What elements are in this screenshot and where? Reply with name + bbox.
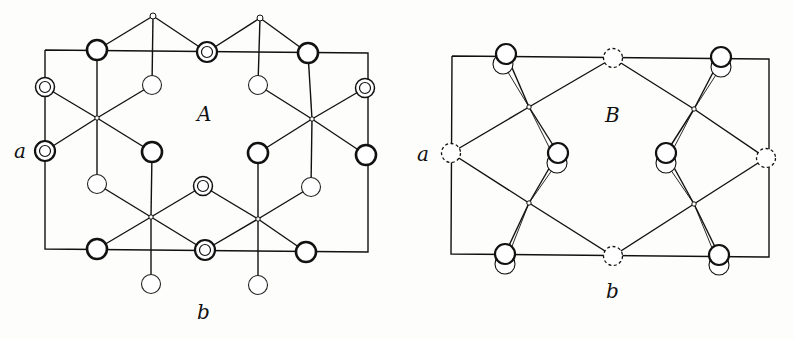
unit-cell-outline-a xyxy=(45,50,368,252)
paired-atom xyxy=(711,47,731,77)
figure-canvas: A a b xyxy=(0,0,794,339)
thick-atom xyxy=(142,142,162,162)
dashed-atom xyxy=(604,247,623,266)
center-dot xyxy=(310,117,314,121)
center-dot xyxy=(527,105,531,109)
paired-atom xyxy=(709,245,729,275)
thin-atom xyxy=(143,76,162,95)
paired-atom xyxy=(656,143,676,173)
double-atom xyxy=(35,141,55,161)
panel-b: B a b xyxy=(417,44,776,303)
thin-atom xyxy=(249,276,268,295)
thin-atom xyxy=(302,178,321,197)
thin-atom xyxy=(88,175,107,194)
center-dot xyxy=(256,217,260,221)
unit-cell-outline-b xyxy=(451,56,769,257)
paired-atom xyxy=(495,244,515,274)
dashed-atom xyxy=(757,149,776,168)
apex-dot xyxy=(150,13,156,19)
center-dot xyxy=(149,215,153,219)
apex-dot xyxy=(257,15,263,21)
thick-atom xyxy=(248,143,268,163)
double-atom xyxy=(194,177,213,196)
axis-label-a: a xyxy=(14,139,26,163)
thick-atom xyxy=(87,40,107,60)
panel-a: A a b xyxy=(14,13,376,324)
thin-atom xyxy=(249,76,268,95)
thin-atom xyxy=(142,275,161,294)
thick-atom xyxy=(298,43,318,63)
dashed-atom xyxy=(442,144,461,163)
panel-label-b: B xyxy=(604,103,620,127)
thick-atom xyxy=(87,239,107,259)
axis-label-a: a xyxy=(417,142,429,166)
bonds-b xyxy=(451,54,766,265)
center-dot xyxy=(527,201,531,205)
dashed-atom xyxy=(604,49,623,68)
double-atom xyxy=(197,42,217,62)
axis-label-b: b xyxy=(606,279,619,303)
panel-label-a: A xyxy=(195,102,211,126)
center-dot xyxy=(692,202,696,206)
axis-label-b: b xyxy=(197,300,210,324)
thick-atom xyxy=(296,242,316,262)
center-dot xyxy=(95,116,99,120)
paired-atom xyxy=(547,143,568,173)
double-atom xyxy=(195,240,215,260)
thick-atom xyxy=(356,145,376,165)
double-atom xyxy=(36,78,55,97)
center-dot xyxy=(692,107,696,111)
double-atom xyxy=(356,79,375,98)
